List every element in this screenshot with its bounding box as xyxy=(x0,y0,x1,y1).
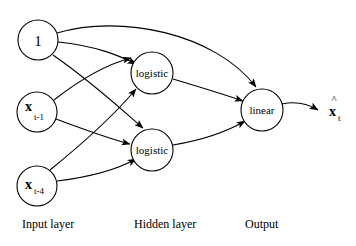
node-logistic-1-label: logistic xyxy=(136,67,169,79)
layer-label-input: Input layer xyxy=(22,217,74,231)
node-x-t-1[interactable]: x t-1 xyxy=(17,92,57,132)
edge-xt1-to-logistic2 xyxy=(56,119,130,144)
node-x-t-1-label: x xyxy=(25,99,32,114)
output-value: ^ x t xyxy=(329,93,341,123)
node-x-t-4[interactable]: x t-4 xyxy=(17,166,57,206)
layer-label-hidden: Hidden layer xyxy=(134,217,196,231)
edge-bias-to-logistic2 xyxy=(53,55,143,128)
layer-label-output: Output xyxy=(245,217,279,231)
node-logistic-2-label: logistic xyxy=(136,144,169,156)
node-linear[interactable]: linear xyxy=(241,89,283,131)
edge-bias-to-logistic1 xyxy=(58,42,136,64)
node-x-t-4-label: x xyxy=(25,177,32,192)
edge-logistic2-to-linear xyxy=(173,121,245,145)
node-logistic-1[interactable]: logistic xyxy=(131,52,173,94)
node-x-t-4-subscript: t-4 xyxy=(34,186,44,196)
edge-xt4-to-logistic1 xyxy=(50,89,136,170)
edge-linear-to-output xyxy=(282,103,318,110)
node-bias-label: 1 xyxy=(34,33,42,49)
neural-network-diagram: 1 x t-1 x t-4 logistic logistic linear ^… xyxy=(0,0,356,246)
node-bias[interactable]: 1 xyxy=(18,20,58,60)
node-x-t-1-subscript: t-1 xyxy=(34,112,44,122)
node-linear-label: linear xyxy=(249,104,274,116)
edge-xt4-to-logistic2 xyxy=(57,159,136,181)
edge-logistic1-to-linear xyxy=(173,79,243,101)
output-value-main: x xyxy=(329,104,336,119)
node-logistic-2[interactable]: logistic xyxy=(131,129,173,171)
output-value-subscript: t xyxy=(338,113,341,123)
